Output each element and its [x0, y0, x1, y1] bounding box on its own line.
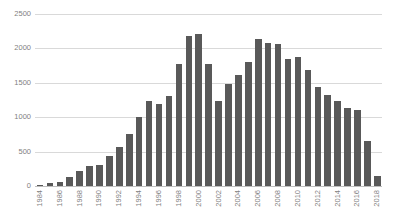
x-tick-slot: 1988 [75, 188, 85, 224]
x-tick-slot [343, 188, 353, 224]
x-tick-slot [184, 188, 194, 224]
x-tick-slot: 2004 [233, 188, 243, 224]
x-tick-slot: 1984 [35, 188, 45, 224]
bar[interactable] [235, 75, 242, 186]
bar[interactable] [47, 183, 54, 186]
bar-slot [204, 14, 214, 186]
bar[interactable] [315, 87, 322, 186]
bar-slot [263, 14, 273, 186]
y-tick-label: 2000 [14, 45, 31, 53]
bar-slot [114, 14, 124, 186]
bar-slot [55, 14, 65, 186]
bar-slot [85, 14, 95, 186]
x-tick-label: 2016 [354, 190, 362, 207]
x-tick-slot: 1990 [95, 188, 105, 224]
bar-slot [104, 14, 114, 186]
y-axis: 05001000150020002500 [0, 0, 35, 224]
x-tick-slot: 2002 [214, 188, 224, 224]
bar[interactable] [255, 39, 262, 186]
x-tick-label: 1992 [116, 190, 124, 207]
x-tick-slot [104, 188, 114, 224]
bar[interactable] [305, 70, 312, 186]
x-tick-slot [65, 188, 75, 224]
x-tick-slot [45, 188, 55, 224]
y-tick-label: 500 [18, 148, 31, 156]
bar-slot [154, 14, 164, 186]
x-tick-slot: 1986 [55, 188, 65, 224]
bar[interactable] [215, 101, 222, 186]
bar[interactable] [275, 44, 282, 186]
bar-slot [233, 14, 243, 186]
bar[interactable] [354, 110, 361, 186]
x-tick-label: 1994 [135, 190, 143, 207]
bar[interactable] [295, 57, 302, 186]
bar-slot [362, 14, 372, 186]
bar-slot [65, 14, 75, 186]
x-tick-label: 1990 [96, 190, 104, 207]
bar-slot [184, 14, 194, 186]
bar[interactable] [166, 96, 173, 186]
x-tick-slot [164, 188, 174, 224]
x-tick-label: 2008 [274, 190, 282, 207]
x-tick-slot [224, 188, 234, 224]
x-tick-slot: 1992 [114, 188, 124, 224]
x-tick-slot: 1998 [174, 188, 184, 224]
bar[interactable] [116, 147, 123, 186]
bar-slot [293, 14, 303, 186]
bar[interactable] [96, 165, 103, 186]
x-tick-slot [144, 188, 154, 224]
axis-baseline [35, 186, 382, 187]
x-tick-label: 2014 [334, 190, 342, 207]
bar[interactable] [37, 185, 44, 186]
x-tick-slot [283, 188, 293, 224]
bar[interactable] [195, 34, 202, 186]
x-tick-label: 1988 [76, 190, 84, 207]
bar[interactable] [374, 176, 381, 186]
bar[interactable] [146, 101, 153, 186]
bar[interactable] [66, 177, 73, 186]
bar[interactable] [334, 101, 341, 186]
x-tick-label: 1986 [56, 190, 64, 207]
bar[interactable] [324, 95, 331, 187]
x-tick-slot: 2008 [273, 188, 283, 224]
bar-slot [75, 14, 85, 186]
bar-slot [313, 14, 323, 186]
bar[interactable] [245, 62, 252, 186]
plot-area [35, 14, 382, 186]
x-tick-slot [204, 188, 214, 224]
x-tick-slot: 2000 [194, 188, 204, 224]
x-tick-slot [124, 188, 134, 224]
bar[interactable] [176, 64, 183, 186]
x-tick-label: 2000 [195, 190, 203, 207]
y-tick-label: 1000 [14, 113, 31, 121]
bar[interactable] [156, 104, 163, 186]
x-tick-label: 2012 [314, 190, 322, 207]
x-tick-slot [323, 188, 333, 224]
x-tick-slot [243, 188, 253, 224]
x-tick-slot: 2014 [333, 188, 343, 224]
x-tick-slot: 1996 [154, 188, 164, 224]
x-tick-slot [303, 188, 313, 224]
bar[interactable] [225, 84, 232, 186]
bar[interactable] [57, 182, 64, 186]
bar[interactable] [344, 108, 351, 186]
bar[interactable] [186, 36, 193, 186]
bar-slot [323, 14, 333, 186]
bar[interactable] [106, 156, 113, 186]
bar-slot [303, 14, 313, 186]
bar[interactable] [364, 141, 371, 186]
bar[interactable] [86, 166, 93, 186]
bar[interactable] [136, 117, 143, 186]
bar[interactable] [265, 43, 272, 186]
bar-slot [224, 14, 234, 186]
bar[interactable] [285, 59, 292, 186]
x-axis: 1984198619881990199219941996199820002002… [35, 188, 382, 224]
bar-slot [253, 14, 263, 186]
bar[interactable] [76, 171, 83, 186]
bar-slot [194, 14, 204, 186]
bar-slot [343, 14, 353, 186]
bar[interactable] [205, 64, 212, 186]
bar-slot [283, 14, 293, 186]
bar-slot [214, 14, 224, 186]
bar[interactable] [126, 134, 133, 186]
